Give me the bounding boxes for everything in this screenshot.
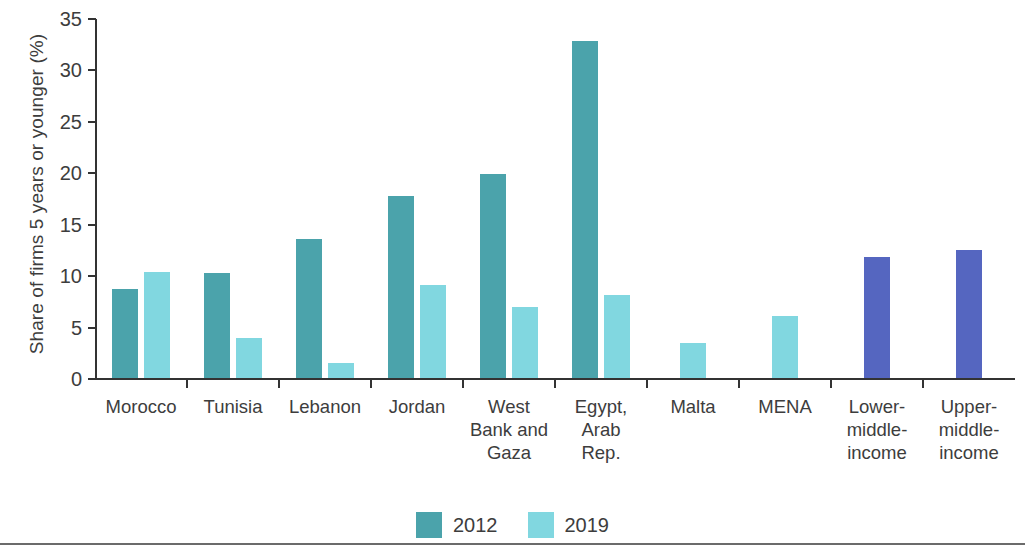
bar-2019: [236, 338, 262, 378]
bar-2012: [480, 174, 506, 378]
y-axis-tick: [88, 121, 96, 123]
bar-2019: [604, 295, 630, 378]
bar-2019: [680, 343, 706, 378]
bar-2012: [388, 196, 414, 378]
x-axis-tick: [738, 379, 740, 388]
x-axis-tick: [462, 379, 464, 388]
y-axis-tick: [88, 18, 96, 20]
x-axis-tick: [646, 379, 648, 388]
bar-2019: [144, 272, 170, 378]
bar-2019: [772, 316, 798, 378]
y-axis-tick: [88, 275, 96, 277]
y-axis-tick: [88, 172, 96, 174]
x-axis-tick: [830, 379, 832, 388]
category-label-line: middle-: [915, 418, 1023, 441]
y-axis-tick-label: 0: [38, 369, 82, 389]
y-axis-tick-label: 20: [38, 163, 82, 183]
x-axis-tick: [554, 379, 556, 388]
bar-2019: [328, 363, 354, 378]
y-axis-tick-label: 30: [38, 60, 82, 80]
y-axis-tick: [88, 224, 96, 226]
x-axis-category-label: Upper-middle-income: [915, 395, 1023, 464]
category-label-line: Rep.: [547, 441, 655, 464]
bar-2012: [572, 41, 598, 378]
y-axis-tick-label: 25: [38, 112, 82, 132]
legend-item[interactable]: 2019: [528, 512, 610, 538]
x-axis-tick: [278, 379, 280, 388]
bar-2019: [512, 307, 538, 378]
bar-chart: Share of firms 5 years or younger (%) 05…: [0, 0, 1025, 545]
legend-swatch: [528, 512, 554, 538]
legend-swatch: [416, 512, 442, 538]
category-label-line: Upper-: [915, 395, 1023, 418]
legend-label: 2012: [453, 514, 498, 537]
x-axis-tick: [186, 379, 188, 388]
y-axis-tick-label: 15: [38, 215, 82, 235]
y-axis-tick: [88, 378, 96, 380]
y-axis-tick-label: 5: [38, 318, 82, 338]
y-axis-line: [95, 19, 97, 379]
y-axis-tick: [88, 327, 96, 329]
plot-area: [95, 19, 1015, 379]
bar-2012: [112, 289, 138, 378]
x-axis-tick: [922, 379, 924, 388]
y-axis-tick-label: 35: [38, 9, 82, 29]
bar-2019: [420, 285, 446, 378]
x-axis-tick: [370, 379, 372, 388]
chart-legend: 20122019: [0, 512, 1025, 538]
bar-income: [864, 257, 890, 378]
y-axis-tick: [88, 69, 96, 71]
legend-item[interactable]: 2012: [416, 512, 498, 538]
category-label-line: income: [915, 441, 1023, 464]
bar-2012: [204, 273, 230, 378]
bar-2012: [296, 239, 322, 378]
legend-label: 2019: [565, 514, 610, 537]
bar-income: [956, 250, 982, 378]
y-axis-tick-label: 10: [38, 266, 82, 286]
category-label-line: Arab: [547, 418, 655, 441]
